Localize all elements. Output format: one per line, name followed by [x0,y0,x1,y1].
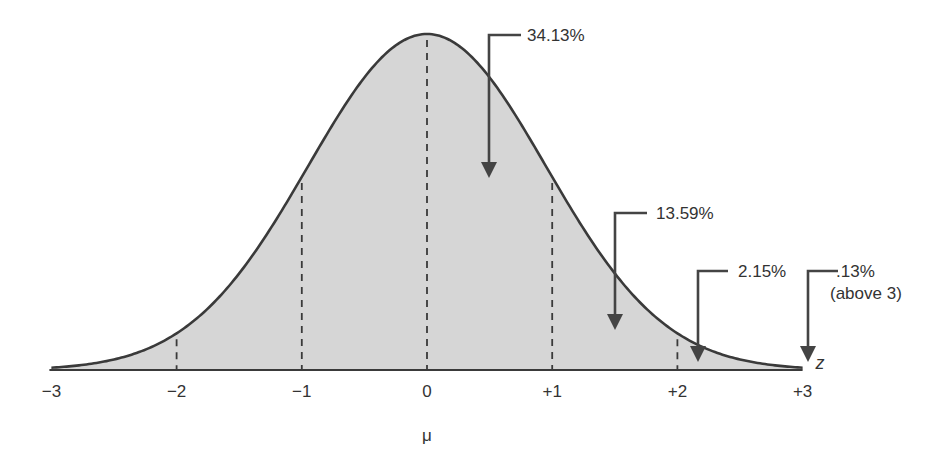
tick-label: −2 [167,382,186,401]
arrow-head-icon [800,346,816,362]
tick-label: −1 [292,382,311,401]
annotation-arrow: .13%(above 3) [800,262,902,362]
normal-distribution-chart: −3−2−10+1+2+3 μ z 34.13%13.59%2.15%.13%(… [0,0,952,454]
percent-label: 13.59% [656,204,714,223]
mean-mu-label: μ [422,426,432,445]
percent-sublabel: (above 3) [830,284,902,303]
tick-label: +1 [543,382,562,401]
tick-label: −3 [42,382,61,401]
percent-label: .13% [836,262,875,281]
annotation-arrow: 2.15% [690,262,786,362]
x-axis-tick-labels: −3−2−10+1+2+3 [42,382,813,401]
z-axis-label: z [815,353,825,373]
percent-label: 34.13% [527,26,585,45]
percent-label: 2.15% [738,262,786,281]
tick-label: +2 [668,382,687,401]
tick-label: 0 [422,382,431,401]
tick-label: +3 [793,382,812,401]
